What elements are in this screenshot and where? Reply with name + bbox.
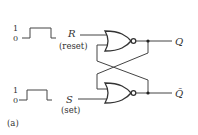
inversion-bubble-bottom — [131, 91, 136, 96]
reset-description: (reset) — [59, 41, 88, 51]
reset-input-label: R — [67, 28, 76, 39]
set-low-label: 0 — [13, 96, 18, 105]
reset-pulse — [22, 28, 56, 38]
qbar-output-label: Q̄ — [175, 88, 183, 99]
set-description: (set) — [61, 105, 80, 115]
set-input-label: S — [66, 94, 73, 105]
junction-dot-qbar — [146, 91, 149, 94]
q-output-label: Q — [175, 36, 183, 47]
sr-latch-diagram: 1 0 R (reset) 1 0 S (set) Q Q̄ (a) — [0, 0, 198, 135]
inversion-bubble-top — [131, 39, 136, 44]
panel-label: (a) — [7, 118, 19, 128]
reset-high-label: 1 — [13, 24, 18, 33]
junction-dot-q — [146, 39, 149, 42]
reset-low-label: 0 — [13, 34, 18, 43]
set-pulse — [19, 90, 52, 100]
reset-waveform: 1 0 — [13, 24, 56, 43]
nor-gate-top — [105, 31, 136, 51]
nor-gate-bottom — [105, 83, 136, 103]
set-high-label: 1 — [13, 86, 18, 95]
set-waveform: 1 0 — [13, 86, 52, 105]
